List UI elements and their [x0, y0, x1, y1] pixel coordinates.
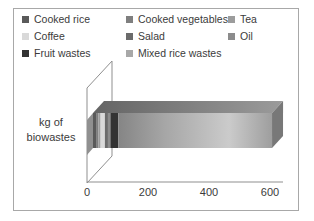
bar-top-face — [93, 101, 283, 113]
bar-segments — [93, 113, 272, 148]
chart-figure: Cooked rice Cooked vegetables Tea Coffee… — [0, 0, 314, 221]
bar-segment-salad — [105, 113, 108, 148]
x-axis-tick-400: 400 — [189, 186, 229, 198]
bar-left-cap — [87, 113, 93, 155]
bar-segment-mixed-rice-wastes — [118, 113, 272, 148]
x-axis-tick-200: 200 — [128, 186, 168, 198]
bar-segment-coffee — [101, 113, 105, 148]
bar-segment-tea — [98, 113, 100, 148]
bar-segment-oil — [108, 113, 110, 148]
bar-segment-cooked-rice — [93, 113, 96, 148]
x-axis-tick-0: 0 — [67, 186, 107, 198]
bar-segment-fruit-wastes — [110, 113, 118, 148]
x-axis-tick-600: 600 — [250, 186, 290, 198]
bar-segment-cooked-vegetables — [96, 113, 98, 148]
